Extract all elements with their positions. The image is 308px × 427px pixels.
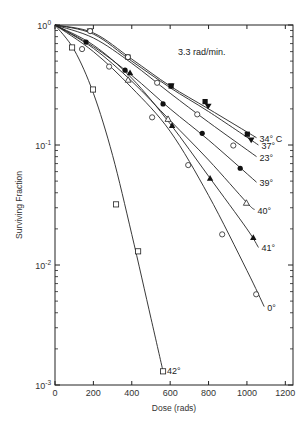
marker-0 [150, 115, 155, 120]
marker-23 [88, 28, 93, 33]
marker-42 [113, 202, 118, 207]
marker-0 [107, 64, 112, 69]
x-tick-label: 200 [86, 388, 101, 398]
series-labels: 34° C37°23°39°40°41°0°42° [167, 134, 283, 377]
series-line-39 [55, 25, 257, 182]
series-line-42 [55, 25, 163, 371]
x-tick-label: 1200 [275, 388, 295, 398]
marker-42 [160, 369, 165, 374]
marker-37 [205, 104, 212, 110]
y-tick-label: 10-1 [35, 139, 51, 151]
marker-39 [122, 68, 127, 73]
y-tick-label: 10-3 [35, 379, 51, 391]
series-label-42: 42° [167, 366, 181, 376]
marker-23 [125, 55, 130, 60]
marker-0 [79, 46, 84, 51]
marker-39 [200, 131, 205, 136]
series-label-40: 40° [258, 206, 272, 216]
x-axis-label: Dose (rads) [152, 403, 197, 413]
marker-34C [245, 132, 250, 137]
series-label-37: 37° [261, 141, 275, 151]
series-label-23: 23° [260, 153, 274, 163]
marker-42 [136, 249, 141, 254]
series-curves [55, 25, 264, 371]
x-tick-label: 800 [201, 388, 216, 398]
dose-rate-annotation: 3.3 rad/min. [178, 47, 226, 57]
marker-37 [248, 137, 255, 143]
series-label-39: 39° [260, 178, 274, 188]
marker-0 [220, 232, 225, 237]
marker-23 [155, 80, 160, 85]
marker-23 [231, 143, 236, 148]
marker-23 [195, 112, 200, 117]
marker-42 [90, 87, 95, 92]
y-axis-label: Surviving Fraction [14, 171, 24, 239]
series-line-23 [55, 25, 257, 157]
marker-39 [83, 40, 88, 45]
marker-39 [238, 166, 243, 171]
marker-42 [69, 45, 74, 50]
x-tick-label: 400 [124, 388, 139, 398]
x-tick-label: 1000 [237, 388, 257, 398]
series-label-41: 41° [261, 243, 275, 253]
marker-0 [254, 292, 259, 297]
x-tick-label: 0 [52, 388, 57, 398]
axis-ticks: 02004006008001000120010010-110-210-3 [35, 19, 295, 398]
series-markers [69, 28, 258, 373]
series-line-0 [55, 25, 264, 307]
x-tick-label: 600 [163, 388, 178, 398]
marker-34C [202, 99, 207, 104]
survival-chart: 02004006008001000120010010-110-210-3 34°… [0, 0, 308, 427]
marker-40 [243, 200, 249, 206]
y-tick-label: 100 [37, 19, 51, 31]
series-label-0: 0° [267, 303, 276, 313]
y-tick-label: 10-2 [35, 259, 51, 271]
marker-0 [186, 162, 191, 167]
marker-39 [160, 101, 165, 106]
